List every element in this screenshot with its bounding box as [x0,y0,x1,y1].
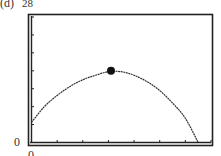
parabola-curve [32,71,199,142]
graph-frame [29,15,213,146]
calculator-graph [0,0,221,156]
axis-ticks [32,17,212,143]
maximum-point-marker [107,67,115,75]
